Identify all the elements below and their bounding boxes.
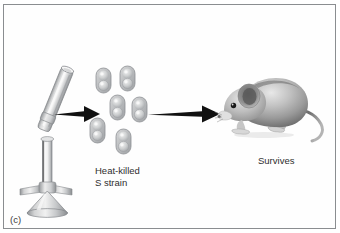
heat-killed-s-strain-label: Heat-killed S strain [95, 165, 140, 188]
bunsen-burner-icon [14, 58, 86, 218]
figure-panel: Heat-killed S strain [0, 0, 340, 233]
mouse-icon [216, 58, 336, 150]
arrow-right-icon [148, 101, 220, 127]
panel-label: (c) [10, 214, 21, 225]
survives-label: Survives [258, 155, 294, 167]
